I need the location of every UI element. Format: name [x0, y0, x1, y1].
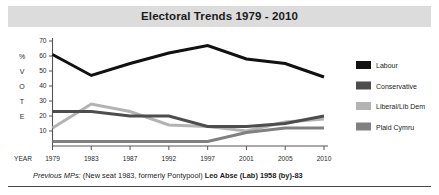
legend-label-conservative: Conservative: [376, 83, 417, 90]
footnote-mp-name: Leo Abse (Lab) 1958 (by)-83: [205, 171, 303, 180]
x-axis-year-label-1992: 1992: [162, 155, 177, 162]
chart-page: Electoral Trends 1979 - 2010 %VOTE 70605…: [0, 0, 439, 195]
footnote: Previous MPs: (New seat 1983, formerly P…: [33, 171, 433, 180]
y-tick-label-20: 20: [39, 112, 47, 119]
x-axis-year-label-1983: 1983: [84, 155, 99, 162]
y-tick-label-group: 70605040302010: [39, 37, 47, 134]
series-line-group: [53, 46, 325, 142]
x-axis-year-label-1997: 1997: [200, 155, 215, 162]
footnote-prefix: Previous MPs:: [33, 171, 81, 180]
chart-legend: LabourConservativeLiberal/Lib DemPlaid C…: [356, 61, 425, 132]
y-axis-title-letter-1: V: [20, 68, 25, 75]
electoral-trends-line-chart: %VOTE 70605040302010 1979198319871992199…: [0, 30, 439, 168]
y-tick-label-60: 60: [39, 52, 47, 59]
y-tick-label-30: 30: [39, 97, 47, 104]
legend-swatch-plaid-cymru: [356, 123, 371, 131]
x-axis-year-label-2010: 2010: [317, 155, 332, 162]
legend-label-liberal-lib-dem: Liberal/Lib Dem: [376, 103, 425, 110]
series-line-labour: [53, 46, 325, 78]
legend-label-plaid-cymru: Plaid Cymru: [376, 124, 414, 132]
x-axis-year-label-2005: 2005: [278, 155, 293, 162]
legend-swatch-liberal-lib-dem: [356, 102, 371, 110]
x-tick-mark-group: [53, 146, 325, 150]
chart-plot-area: %VOTE 70605040302010 1979198319871992199…: [0, 30, 439, 168]
y-axis-title-letter-2: O: [19, 83, 25, 90]
legend-swatch-labour: [356, 61, 371, 69]
y-axis-title-letter-3: T: [20, 98, 25, 105]
y-tick-label-40: 40: [39, 82, 47, 89]
legend-swatch-conservative: [356, 82, 371, 90]
legend-label-labour: Labour: [376, 62, 398, 69]
y-tick-label-70: 70: [39, 37, 47, 44]
series-line-plaid-cymru: [53, 128, 325, 142]
x-axis-year-labels: 19791983198719921997200120052010: [45, 155, 332, 162]
y-axis-title-letter-0: %: [19, 53, 25, 60]
y-tick-label-10: 10: [39, 127, 47, 134]
y-tick-label-50: 50: [39, 67, 47, 74]
bottom-divider: [8, 186, 431, 187]
x-axis-title: YEAR: [14, 155, 32, 162]
x-axis-year-label-1979: 1979: [45, 155, 60, 162]
x-axis-year-label-2001: 2001: [239, 155, 254, 162]
y-axis-title-letter-4: E: [20, 113, 25, 120]
page-title: Electoral Trends 1979 - 2010: [8, 6, 431, 27]
x-axis-year-label-1987: 1987: [123, 155, 138, 162]
footnote-seat-note: (New seat 1983, formerly Pontypool): [83, 171, 203, 180]
y-axis-title-group: %VOTE: [19, 53, 25, 120]
